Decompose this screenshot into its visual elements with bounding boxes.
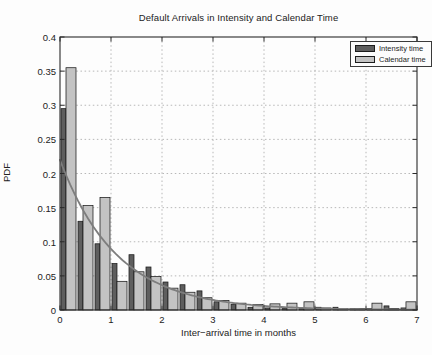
bar-intensity-time <box>95 244 100 310</box>
y-tick-label: 0 <box>22 305 56 316</box>
y-tick-label: 0.3 <box>22 100 56 111</box>
x-tick-label: 4 <box>261 314 266 325</box>
legend-label-intensity: Intensity time <box>379 45 423 53</box>
bar-intensity-time <box>146 267 151 310</box>
bar-calendar-time <box>117 281 127 310</box>
bar-calendar-time <box>66 68 76 310</box>
x-tick-label: 3 <box>210 314 215 325</box>
bar-intensity-time <box>197 291 202 310</box>
y-tick-label: 0.25 <box>22 134 56 145</box>
bar-calendar-time <box>134 272 144 310</box>
bar-intensity-time <box>214 302 219 310</box>
y-tick-label: 0.2 <box>22 168 56 179</box>
legend-swatch-intensity-icon <box>355 45 375 52</box>
bar-intensity-time <box>129 255 134 310</box>
bar-calendar-time <box>100 197 110 310</box>
y-tick-label: 0.15 <box>22 202 56 213</box>
x-tick-label: 2 <box>159 314 164 325</box>
x-tick-label: 5 <box>312 314 317 325</box>
bar-intensity-time <box>231 305 236 310</box>
y-tick-label: 0.4 <box>22 32 56 43</box>
legend-item-calendar: Calendar time <box>355 56 426 64</box>
y-tick-label: 0.05 <box>22 270 56 281</box>
bar-intensity-time <box>180 285 185 310</box>
bar-intensity-time <box>112 264 117 310</box>
bar-intensity-time <box>78 221 83 310</box>
x-tick-label: 7 <box>414 314 419 325</box>
bar-intensity-time <box>61 109 66 310</box>
bar-calendar-time <box>83 206 93 310</box>
bar-calendar-time <box>406 302 416 310</box>
y-axis-label: PDF <box>1 141 12 205</box>
y-tick-label: 0.1 <box>22 236 56 247</box>
legend: Intensity time Calendar time <box>350 41 432 67</box>
figure-title: Default Arrivals in Intensity and Calend… <box>60 12 417 23</box>
legend-label-calendar: Calendar time <box>379 56 426 64</box>
legend-item-intensity: Intensity time <box>355 45 426 53</box>
legend-swatch-calendar-icon <box>355 56 375 63</box>
x-tick-label: 0 <box>57 314 62 325</box>
x-tick-label: 1 <box>108 314 113 325</box>
y-tick-label: 0.35 <box>22 66 56 77</box>
x-axis-label: Inter−arrival time in months <box>60 327 417 338</box>
x-tick-label: 6 <box>363 314 368 325</box>
